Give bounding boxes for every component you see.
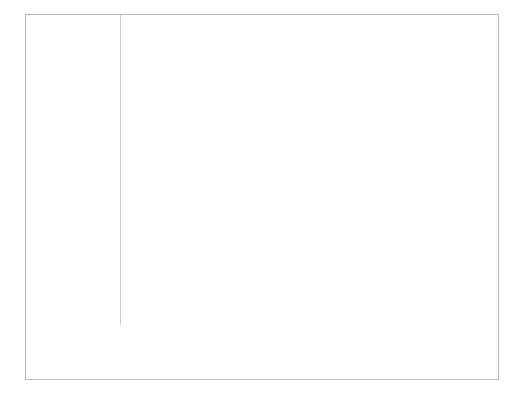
- x-axis: [121, 325, 499, 345]
- plot-area: [121, 15, 499, 325]
- chart-frame: [25, 14, 499, 380]
- category-axis: [26, 15, 121, 325]
